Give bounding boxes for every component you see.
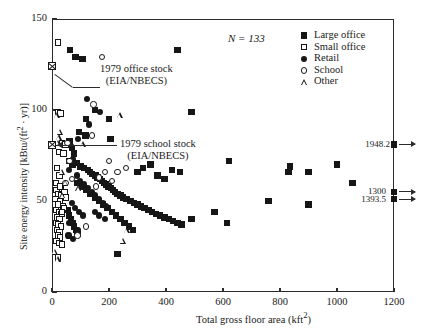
- marker-large-office: [285, 169, 291, 175]
- marker-other: [52, 249, 58, 255]
- marker-large-office: [114, 251, 120, 257]
- chart-figure: 020040060080010001200050100150Total gros…: [0, 0, 426, 336]
- x-axis-tick: [393, 288, 394, 293]
- marker-large-office: [224, 220, 230, 226]
- marker-large-office: [154, 172, 160, 178]
- marker-retail: [84, 96, 90, 102]
- marker-large-office: [391, 196, 397, 202]
- legend-label: Large office: [314, 29, 365, 40]
- marker-large-office: [147, 161, 153, 167]
- marker-large-office: [76, 129, 82, 135]
- school-stock-line2: (EIA/NBECS): [120, 150, 196, 162]
- x-axis-tick: [108, 288, 109, 293]
- marker-large-office: [130, 227, 136, 233]
- marker-large-office: [107, 136, 113, 142]
- marker-large-office: [305, 169, 311, 175]
- x-axis-tick-label: 0: [26, 296, 78, 307]
- marker-large-office: [67, 47, 73, 53]
- marker-other: [59, 192, 65, 198]
- marker-retail: [102, 216, 108, 222]
- x-axis-tick-label: 200: [83, 296, 135, 307]
- x-axis-tick-label: 1200: [368, 296, 420, 307]
- legend-label: Retail: [314, 52, 339, 63]
- marker-other: [117, 112, 123, 118]
- marker-retail: [301, 56, 307, 62]
- x-axis-tick: [279, 288, 280, 293]
- marker-small-office: [59, 241, 65, 247]
- marker-large-office: [265, 198, 271, 204]
- marker-large-office: [82, 132, 88, 138]
- x-axis-title: Total gross floor area (kft2): [196, 310, 311, 325]
- sample-size-label: N = 133: [228, 32, 265, 44]
- marker-small-office: [55, 39, 61, 45]
- x-axis-tick-label: 400: [140, 296, 192, 307]
- marker-other: [301, 79, 307, 85]
- marker-school: [301, 67, 307, 73]
- marker-retail: [80, 212, 86, 218]
- offscale-arrow: [399, 199, 415, 200]
- x-axis-tick-label: 600: [197, 296, 249, 307]
- marker-other: [59, 169, 65, 175]
- y-axis-title: Site energy intensity [kBtu/(ft2 · yr)]: [16, 103, 29, 250]
- marker-other: [75, 185, 81, 191]
- marker-retail: [86, 121, 92, 127]
- x-axis-tick: [165, 288, 166, 293]
- marker-school: [96, 174, 102, 180]
- marker-large-office: [211, 209, 217, 215]
- legend-label: Small office: [314, 41, 365, 52]
- offscale-label: 1393.5: [342, 195, 386, 205]
- school-stock-leader: [57, 145, 117, 146]
- legend-label: School: [314, 64, 343, 75]
- marker-large-office: [140, 165, 146, 171]
- marker-school: [114, 169, 120, 175]
- marker-large-office: [391, 189, 397, 195]
- marker-school: [83, 223, 89, 229]
- office-stock-line1: 1979 office stock: [100, 63, 173, 74]
- marker-large-office: [287, 163, 293, 169]
- marker-large-office: [334, 161, 340, 167]
- marker-school: [74, 232, 80, 238]
- marker-large-office: [349, 180, 355, 186]
- plot-area: [52, 19, 394, 292]
- offscale-arrow: [399, 144, 415, 145]
- x-axis-tick-label: 800: [254, 296, 306, 307]
- office-stock-line2: (EIA/NBECS): [100, 75, 173, 87]
- marker-large-office: [391, 141, 397, 147]
- x-axis-tick: [222, 288, 223, 293]
- marker-school: [102, 169, 108, 175]
- y-axis-tick-label: 150: [14, 12, 47, 23]
- marker-other: [54, 112, 60, 118]
- marker-large-office: [188, 109, 194, 115]
- marker-large-office: [177, 169, 183, 175]
- marker-large-office: [79, 56, 85, 62]
- x-axis-tick-label: 1000: [311, 296, 363, 307]
- school-stock-annotation: 1979 school stock(EIA/NBECS): [120, 138, 196, 162]
- marker-school: [66, 158, 72, 164]
- marker-large-office: [174, 47, 180, 53]
- office-stock-marker: [48, 62, 56, 70]
- marker-school: [93, 183, 99, 189]
- marker-large-office: [161, 176, 167, 182]
- marker-small-office: [301, 44, 307, 50]
- marker-large-office: [226, 158, 232, 164]
- marker-school: [90, 101, 96, 107]
- office-stock-annotation: 1979 office stock(EIA/NBECS): [100, 63, 173, 87]
- marker-other: [124, 227, 130, 233]
- marker-other: [55, 256, 61, 262]
- marker-large-office: [72, 54, 78, 60]
- y-axis-tick: [52, 291, 57, 292]
- offscale-label: 1948.2: [346, 140, 390, 150]
- marker-large-office: [169, 167, 175, 173]
- marker-large-office: [178, 221, 184, 227]
- marker-other: [62, 180, 68, 186]
- y-axis-tick: [52, 18, 57, 19]
- school-stock-arrowhead: [57, 142, 62, 148]
- office-stock-leader-horizontal: [73, 87, 100, 88]
- school-stock-line1: 1979 school stock: [120, 138, 196, 149]
- marker-large-office: [305, 201, 311, 207]
- marker-large-office: [106, 116, 112, 122]
- x-axis-tick: [336, 288, 337, 293]
- marker-small-office: [59, 209, 65, 215]
- marker-small-office: [60, 150, 66, 156]
- marker-large-office: [188, 216, 194, 222]
